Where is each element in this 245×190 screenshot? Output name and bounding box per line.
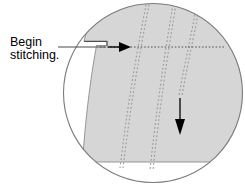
figure-container: Begin stitching. [0,0,244,190]
magnifier-contents [83,0,245,170]
sewing-diagram: Begin stitching. [0,0,244,190]
callout-label-line1: Begin [10,35,42,49]
callout-label-line2: stitching. [10,48,59,62]
fabric-panel [83,0,245,162]
